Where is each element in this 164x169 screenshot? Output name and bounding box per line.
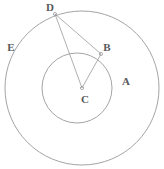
point-label-d: D	[46, 1, 54, 13]
inner-circle	[42, 53, 112, 123]
segment-b-to-c	[82, 54, 101, 88]
geometry-figure: D B C E A	[0, 0, 164, 169]
geometry-canvas: D B C E A	[0, 0, 164, 169]
region-label-a: A	[122, 75, 130, 87]
point-label-b: B	[103, 41, 111, 53]
region-label-e: E	[7, 41, 14, 53]
point-label-c: C	[81, 93, 89, 105]
segment-d-to-c	[55, 14, 82, 88]
